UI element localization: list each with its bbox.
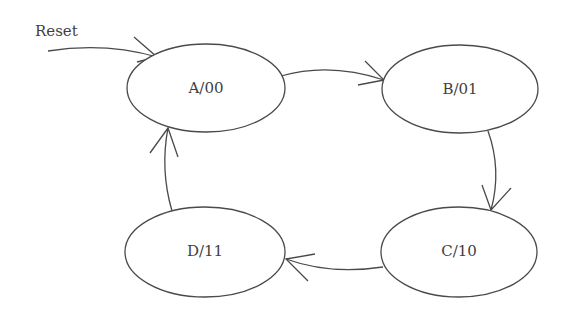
transition-a-to-b	[281, 61, 384, 85]
state-a-label: A/00	[188, 79, 224, 97]
reset-arrow-line	[48, 48, 157, 57]
transition-b-to-c	[482, 131, 511, 210]
reset-label: Reset	[35, 22, 78, 40]
state-c-label: C/10	[441, 242, 477, 260]
b-to-c-arrowhead-icon	[482, 185, 511, 210]
state-d-label: D/11	[187, 242, 223, 260]
state-a: A/00	[127, 44, 285, 132]
a-to-b-arrowhead-icon	[358, 61, 384, 85]
reset-transition: Reset	[35, 22, 157, 62]
state-b: B/01	[382, 45, 538, 133]
c-to-d-arrowhead-icon	[286, 254, 315, 281]
b-to-c-line	[488, 131, 496, 210]
state-b-label: B/01	[442, 80, 477, 98]
state-diagram: Reset A/00 B/01 C/10 D/11	[0, 0, 570, 313]
d-to-a-arrowhead-icon	[150, 128, 178, 157]
transition-d-to-a	[150, 128, 178, 211]
state-d: D/11	[125, 207, 285, 297]
c-to-d-line	[286, 259, 383, 270]
d-to-a-line	[165, 128, 172, 211]
a-to-b-line	[281, 70, 384, 80]
transition-c-to-d	[286, 254, 383, 281]
state-c: C/10	[381, 207, 537, 297]
